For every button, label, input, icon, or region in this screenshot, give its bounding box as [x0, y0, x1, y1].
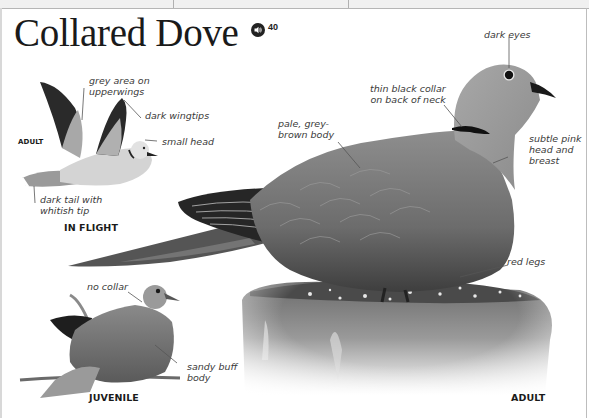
in-flight-dove-illustration: [22, 82, 158, 187]
in-flight-age-label: ADULT: [18, 138, 44, 146]
annotation-pink-head: subtle pink head and breast: [529, 133, 581, 166]
annotation-grey-area: grey area on upperwings: [89, 75, 150, 97]
annotation-no-collar: no collar: [87, 281, 128, 292]
annotation-small-head: small head: [162, 136, 214, 147]
annotation-sandy-body: sandy buff body: [187, 361, 237, 383]
caption-adult: ADULT: [511, 392, 545, 403]
annotation-collar: thin black collar on back of neck: [370, 83, 446, 105]
annotation-dark-tail: dark tail with whitish tip: [40, 194, 102, 216]
caption-juvenile: JUVENILE: [89, 392, 139, 403]
field-guide-page: Collared Dove 40: [0, 0, 589, 418]
annotation-body: pale, grey- brown body: [278, 118, 334, 140]
caption-in-flight: IN FLIGHT: [64, 222, 118, 233]
annotation-dark-eyes: dark eyes: [484, 29, 531, 40]
annotation-dark-wingtips: dark wingtips: [145, 110, 209, 121]
annotation-red-legs: red legs: [507, 256, 545, 267]
adult-dove-illustration: [68, 65, 556, 302]
juvenile-dove-illustration: [20, 285, 180, 398]
